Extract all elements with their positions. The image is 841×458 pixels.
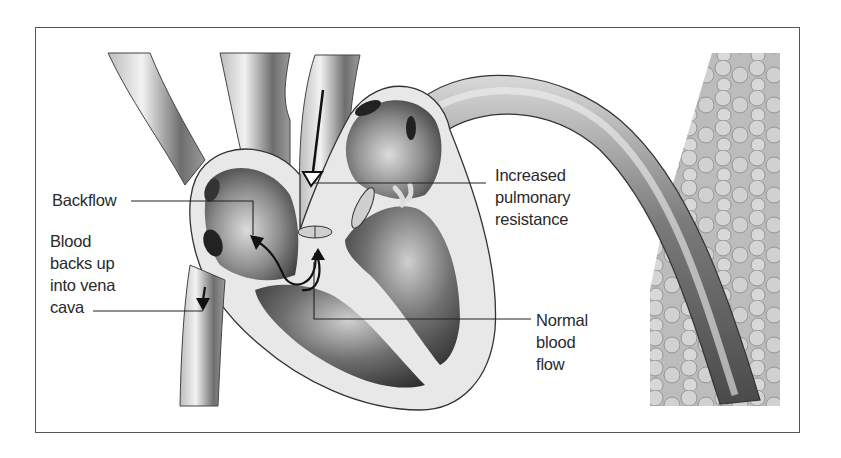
left-atrium [346,97,442,199]
label-normal-blood-flow: Normal blood flow [536,309,588,375]
label-line: resistance [495,208,570,230]
label-line: cava [50,296,115,318]
superior-vena-cava [108,53,205,185]
label-line: Increased [495,164,570,186]
inferior-vena-cava [180,265,225,406]
label-increased-pulmonary-resistance: Increased pulmonary resistance [495,164,570,230]
label-line: into vena [50,274,115,296]
label-line: Normal [536,309,588,331]
label-line: backs up [50,252,115,274]
label-backflow: Backflow [52,189,116,211]
label-blood-backs-up: Blood backs up into vena cava [50,230,115,318]
label-line: Blood [50,230,115,252]
label-line: pulmonary [495,186,570,208]
heart-illustration [0,0,841,458]
label-line: blood [536,331,588,353]
label-line: flow [536,353,588,375]
